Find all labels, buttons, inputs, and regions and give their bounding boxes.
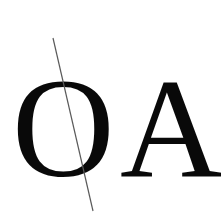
letter-a: A: [120, 57, 221, 199]
letter-o: O: [12, 57, 115, 199]
letters-layer: O A: [0, 0, 221, 216]
image-canvas: O A: [0, 0, 221, 216]
